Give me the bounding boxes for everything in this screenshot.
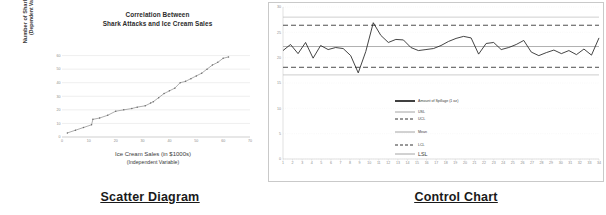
svg-text:10: 10 — [277, 107, 281, 111]
scatter-y-axis-title: Number of Shark Attacks (Dependent Varia… — [22, 0, 34, 52]
svg-text:20: 20 — [57, 108, 61, 112]
svg-text:21: 21 — [473, 161, 477, 165]
svg-text:3: 3 — [301, 161, 303, 165]
legend-label: Mean — [418, 130, 427, 134]
svg-text:32: 32 — [578, 161, 582, 165]
legend-marker-amount-of-spillage-1-oz — [395, 98, 415, 104]
legend-label: USL — [418, 110, 425, 114]
legend-marker-mean — [395, 129, 415, 135]
svg-text:34: 34 — [597, 161, 601, 165]
svg-text:7: 7 — [339, 161, 341, 165]
svg-text:29: 29 — [549, 161, 553, 165]
svg-text:10: 10 — [367, 161, 371, 165]
caption-control-text: Control Chart — [414, 190, 497, 204]
svg-text:60: 60 — [221, 139, 225, 143]
legend-label: UCL — [418, 117, 425, 121]
svg-text:30: 30 — [277, 5, 281, 9]
svg-text:50: 50 — [57, 67, 61, 71]
svg-text:17: 17 — [434, 161, 438, 165]
svg-text:20: 20 — [463, 161, 467, 165]
caption-control-chart: Control Chart — [306, 190, 606, 204]
scatter-y-axis-label: Number of Shark Attacks — [22, 0, 28, 43]
scatter-x-axis-title: Ice Cream Sales (in $1000s) (Independent… — [52, 150, 254, 166]
svg-text:15: 15 — [415, 161, 419, 165]
legend-label: Amount of Spillage (1 oz) — [418, 99, 458, 103]
svg-text:22: 22 — [482, 161, 486, 165]
svg-text:33: 33 — [587, 161, 591, 165]
scatter-x-axis-sublabel: (Independent Variable) — [52, 158, 254, 166]
svg-text:30: 30 — [559, 161, 563, 165]
scatter-title-line-2: Shark Attacks and Ice Cream Sales — [50, 19, 265, 28]
svg-text:16: 16 — [425, 161, 429, 165]
svg-text:9: 9 — [359, 161, 361, 165]
svg-text:20: 20 — [277, 56, 281, 60]
svg-text:0: 0 — [61, 139, 63, 143]
control-chart-legend: Amount of Spillage (1 oz)USLUCLMeanLCLLS… — [395, 95, 515, 159]
svg-text:5: 5 — [320, 161, 322, 165]
scatter-title-line-1: Correlation Between — [50, 10, 265, 19]
svg-text:6: 6 — [330, 161, 332, 165]
legend-marker-lcl — [395, 142, 415, 148]
legend-label: LSL — [418, 151, 428, 157]
svg-text:60: 60 — [57, 54, 61, 58]
caption-scatter-text: Scatter Diagram — [101, 190, 200, 204]
legend-item: Mean — [395, 126, 515, 137]
svg-text:27: 27 — [530, 161, 534, 165]
svg-text:25: 25 — [277, 31, 281, 35]
svg-text:31: 31 — [568, 161, 572, 165]
svg-text:14: 14 — [405, 161, 409, 165]
svg-text:10: 10 — [57, 122, 61, 126]
legend-item: UCL — [395, 113, 515, 124]
svg-text:70: 70 — [248, 139, 252, 143]
svg-text:40: 40 — [57, 81, 61, 85]
svg-text:26: 26 — [520, 161, 524, 165]
caption-scatter-diagram: Scatter Diagram — [0, 190, 300, 204]
svg-text:13: 13 — [396, 161, 400, 165]
slide-canvas: Correlation Between Shark Attacks and Ic… — [0, 0, 606, 215]
svg-text:24: 24 — [501, 161, 505, 165]
legend-item: Amount of Spillage (1 oz) — [395, 95, 515, 106]
svg-text:4: 4 — [311, 161, 313, 165]
svg-text:28: 28 — [540, 161, 544, 165]
svg-text:15: 15 — [277, 81, 281, 85]
svg-text:1: 1 — [282, 161, 284, 165]
svg-text:12: 12 — [386, 161, 390, 165]
svg-text:50: 50 — [194, 139, 198, 143]
svg-text:19: 19 — [453, 161, 457, 165]
svg-text:0: 0 — [279, 157, 281, 161]
legend-marker-lsl — [395, 151, 415, 157]
svg-text:30: 30 — [141, 139, 145, 143]
svg-text:8: 8 — [349, 161, 351, 165]
svg-text:40: 40 — [167, 139, 171, 143]
svg-text:23: 23 — [492, 161, 496, 165]
scatter-y-axis-sublabel: (Dependent Variable) — [28, 0, 34, 35]
svg-text:18: 18 — [444, 161, 448, 165]
legend-marker-usl — [395, 109, 415, 115]
scatter-diagram-panel: Correlation Between Shark Attacks and Ic… — [0, 0, 300, 215]
control-chart-panel: 0510152025301234567891011121314151617181… — [268, 2, 604, 182]
svg-text:11: 11 — [377, 161, 381, 165]
scatter-chart-title: Correlation Between Shark Attacks and Ic… — [50, 10, 265, 28]
svg-text:5: 5 — [279, 132, 281, 136]
svg-text:2: 2 — [292, 161, 294, 165]
scatter-x-axis-label: Ice Cream Sales (in $1000s) — [52, 150, 254, 158]
svg-text:30: 30 — [57, 95, 61, 99]
legend-item: LSL — [395, 148, 515, 159]
svg-text:10: 10 — [87, 139, 91, 143]
svg-text:20: 20 — [114, 139, 118, 143]
svg-text:25: 25 — [511, 161, 515, 165]
legend-marker-ucl — [395, 116, 415, 122]
legend-label: LCL — [418, 143, 425, 147]
scatter-plot-area: 0102030405060010203040506070 — [52, 40, 254, 145]
scatter-svg: 0102030405060010203040506070 — [52, 40, 254, 145]
